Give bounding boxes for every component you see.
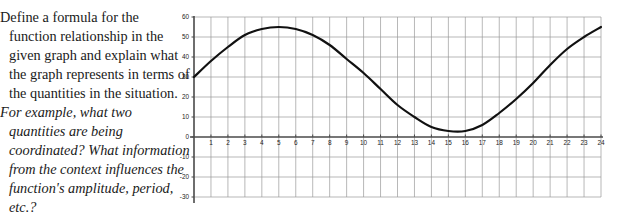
x-tick-1: 1: [209, 139, 213, 146]
worksheet-page: Define a formula for the function relati…: [0, 0, 629, 222]
x-tick-15: 15: [445, 139, 453, 146]
x-tick-24: 24: [597, 139, 605, 146]
x-axis-tick-labels: 123456789101112131415161718192021222324: [209, 139, 605, 146]
x-tick-10: 10: [360, 139, 368, 146]
chart-svg: 6050403020100-10-20-30 12345678910111213…: [165, 8, 625, 208]
x-tick-11: 11: [377, 139, 384, 146]
x-tick-19: 19: [513, 139, 521, 146]
y-tick-0: 0: [185, 133, 189, 140]
sinusoid-graph: 6050403020100-10-20-30 12345678910111213…: [165, 8, 625, 208]
y-tick-neg20: -20: [180, 173, 190, 180]
x-tick-14: 14: [428, 139, 436, 146]
x-tick-16: 16: [462, 139, 470, 146]
x-tick-17: 17: [479, 139, 487, 146]
y-tick-neg30: -30: [180, 193, 190, 200]
x-tick-2: 2: [226, 139, 230, 146]
x-tick-6: 6: [294, 139, 298, 146]
axis-lines: [190, 16, 603, 203]
y-tick-20: 20: [182, 93, 190, 100]
y-tick-30: 30: [182, 73, 190, 80]
x-tick-5: 5: [277, 139, 281, 146]
x-tick-7: 7: [311, 139, 315, 146]
grid-lines: [194, 17, 601, 197]
y-tick-10: 10: [182, 113, 190, 120]
x-tick-21: 21: [547, 139, 555, 146]
x-tick-8: 8: [328, 139, 332, 146]
y-tick-40: 40: [182, 53, 190, 60]
x-tick-22: 22: [564, 139, 572, 146]
y-tick-50: 50: [182, 33, 190, 40]
y-tick-neg10: -10: [180, 153, 190, 160]
prompt-text-block: Define a formula for the function relati…: [0, 8, 190, 217]
x-tick-9: 9: [345, 139, 349, 146]
y-axis-tick-labels: 6050403020100-10-20-30: [180, 13, 190, 200]
y-tick-60: 60: [182, 13, 190, 20]
x-tick-4: 4: [260, 139, 264, 146]
x-tick-13: 13: [411, 139, 419, 146]
x-tick-12: 12: [394, 139, 402, 146]
prompt-italic-sentence: For example, what two quantities are bei…: [0, 103, 190, 217]
x-tick-18: 18: [496, 139, 504, 146]
prompt-roman-sentence: Define a formula for the function relati…: [0, 8, 190, 103]
x-tick-20: 20: [530, 139, 538, 146]
x-tick-23: 23: [580, 139, 588, 146]
x-tick-3: 3: [243, 139, 247, 146]
